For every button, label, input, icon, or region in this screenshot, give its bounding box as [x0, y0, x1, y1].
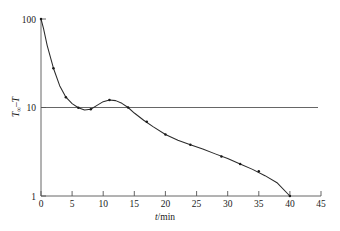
chart-figure: 100 10 1 0 5 10 15 20 25 30 35 40 45: [0, 0, 340, 231]
x-tick-label-10: 10: [98, 199, 108, 209]
x-tick-label-45: 45: [316, 199, 326, 209]
data-point: [127, 106, 130, 109]
svg-text:T∞–T: T∞–T: [11, 96, 22, 117]
data-point: [189, 144, 192, 147]
y-axis-title-symbol2: T: [11, 96, 21, 102]
data-point: [90, 108, 93, 111]
data-point: [40, 18, 43, 21]
data-point: [65, 96, 68, 99]
data-point: [146, 120, 149, 123]
x-axis-title: t/min: [155, 212, 175, 222]
data-point: [52, 67, 55, 70]
x-tick-label-30: 30: [223, 199, 233, 209]
data-point: [258, 170, 261, 173]
data-point: [164, 133, 167, 136]
x-tick-label-35: 35: [254, 199, 264, 209]
data-point: [220, 155, 223, 158]
data-point: [77, 107, 80, 110]
data-point: [289, 195, 292, 198]
svg-text:t/min: t/min: [155, 212, 175, 222]
data-point: [108, 99, 111, 102]
y-axis-title: T∞–T: [11, 96, 22, 117]
y-tick-label-10: 10: [27, 103, 37, 113]
y-tick-label-1: 1: [31, 192, 36, 202]
x-axis-title-unit: /min: [158, 212, 176, 222]
y-tick-label-100: 100: [22, 15, 37, 25]
semilog-cooling-plot: 100 10 1 0 5 10 15 20 25 30 35 40 45: [0, 0, 340, 231]
x-tick-label-0: 0: [39, 199, 44, 209]
x-tick-label-15: 15: [130, 199, 140, 209]
x-tick-label-40: 40: [285, 199, 295, 209]
data-point: [239, 163, 242, 166]
x-tick-label-20: 20: [161, 199, 171, 209]
x-tick-label-25: 25: [192, 199, 202, 209]
x-tick-label-5: 5: [70, 199, 75, 209]
